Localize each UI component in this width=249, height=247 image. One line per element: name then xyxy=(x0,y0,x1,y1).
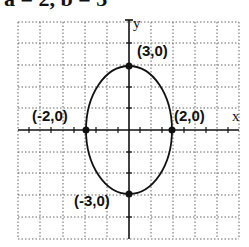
ellipse-graph: y x (3,0) (-2,0) (2,0) (-3,0) xyxy=(0,0,249,247)
x-axis-label: x xyxy=(232,108,240,124)
point-right xyxy=(169,127,176,134)
axes xyxy=(18,20,239,239)
point-bottom xyxy=(126,191,133,198)
point-top xyxy=(126,63,133,70)
label-bottom: (-3,0) xyxy=(74,192,110,209)
label-top: (3,0) xyxy=(137,42,168,59)
y-axis-label: y xyxy=(133,15,141,31)
label-left: (-2,0) xyxy=(32,107,68,124)
label-right: (2,0) xyxy=(174,107,205,124)
point-left xyxy=(83,127,90,134)
